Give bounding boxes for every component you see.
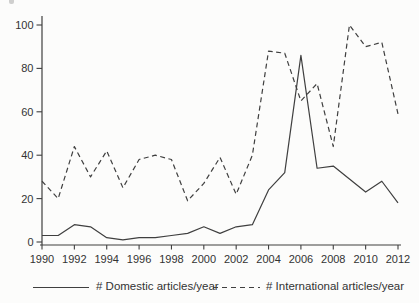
x-tick-label: 1994 (94, 253, 118, 265)
x-tick-label: 1990 (30, 253, 54, 265)
y-tick-label: 0 (27, 236, 33, 248)
x-tick-label: 2006 (289, 253, 313, 265)
y-tick-label: 100 (15, 19, 33, 31)
legend-solid-line-sample (33, 287, 89, 288)
chart-canvas: 0204060801001990199219941996199820002002… (0, 0, 419, 272)
x-tick-label: 2000 (192, 253, 216, 265)
y-tick-label: 60 (21, 106, 33, 118)
y-tick-label: 80 (21, 62, 33, 74)
x-tick-label: 1996 (127, 253, 151, 265)
y-tick-label: 20 (21, 193, 33, 205)
x-tick-label: 2004 (256, 253, 280, 265)
x-tick-label: 2012 (386, 253, 410, 265)
x-tick-label: 2008 (321, 253, 345, 265)
legend-label-international: # International articles/year (266, 280, 404, 292)
y-tick-label: 40 (21, 149, 33, 161)
legend-label-domestic: # Domestic articles/year (96, 280, 219, 292)
chart-figure: 0204060801001990199219941996199820002002… (0, 0, 419, 303)
x-tick-label: 1992 (62, 253, 86, 265)
legend-dashed-line-sample (213, 287, 260, 288)
x-tick-label: 1998 (159, 253, 183, 265)
x-tick-label: 2002 (224, 253, 248, 265)
domestic-series-line (42, 55, 398, 239)
x-tick-label: 2010 (353, 253, 377, 265)
